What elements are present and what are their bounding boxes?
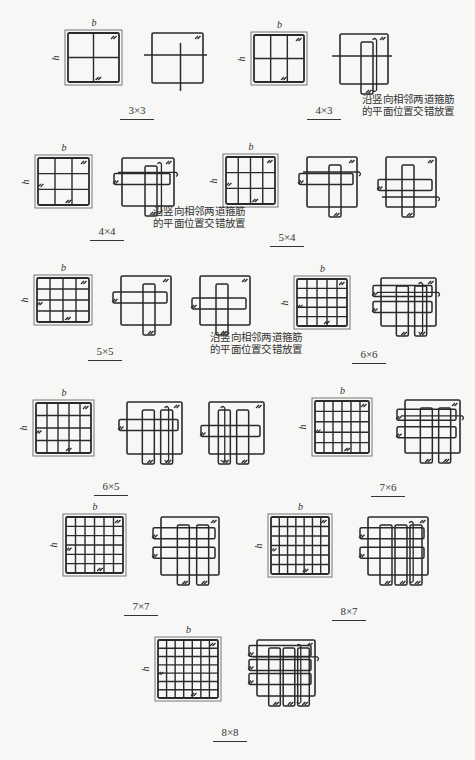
stirrup-assembly: [118, 402, 182, 464]
label-underline: [94, 495, 128, 496]
panel-size-label: 7×6: [371, 481, 405, 497]
stirrup-assembly: [298, 157, 361, 217]
tie-grid: [271, 517, 329, 574]
concrete-section-outline: [155, 637, 221, 701]
dimension-b-label: b: [93, 502, 98, 512]
size-label-text: 4×4: [98, 225, 115, 237]
size-label-text: 6×5: [102, 480, 119, 492]
panel-4x3: [251, 32, 392, 94]
label-underline: [352, 363, 386, 364]
dimension-h-label: h: [298, 425, 308, 430]
stagger-note: 沿竖向相邻两道箍筋 的平面位置交错放置: [153, 206, 246, 230]
stirrup-assembly: [200, 402, 264, 464]
dimension-h-label: h: [19, 426, 29, 431]
panel-5x5: [34, 275, 250, 335]
size-label-text: 7×7: [132, 600, 149, 612]
concrete-section-outline: [35, 155, 92, 208]
stirrup-assembly: [396, 400, 464, 463]
note-line-2: 的平面位置交错放置: [153, 218, 246, 230]
stirrup-assembly: [112, 276, 171, 335]
panel-size-label: 8×8: [213, 726, 247, 742]
label-underline: [332, 620, 366, 621]
label-underline: [90, 240, 124, 241]
panel-size-label: 4×4: [90, 225, 124, 241]
note-line-2: 的平面位置交错放置: [362, 106, 455, 118]
stirrup-assembly: [359, 517, 428, 585]
dimension-b-label: b: [92, 18, 97, 28]
panel-7x7: [63, 514, 219, 585]
note-line-1: 沿竖向相邻两道箍筋: [153, 206, 246, 218]
tie-grid: [38, 158, 89, 205]
label-underline: [213, 741, 247, 742]
stirrup-assembly: [332, 34, 392, 94]
dimension-h-label: h: [51, 55, 61, 60]
panel-8x7: [268, 514, 428, 585]
stagger-note: 沿竖向相邻两道箍筋 的平面位置交错放置: [210, 332, 303, 356]
tie-grid: [297, 279, 347, 326]
panel-size-label: 3×3: [120, 104, 154, 120]
stagger-note: 沿竖向相邻两道箍筋 的平面位置交错放置: [362, 94, 455, 118]
dimension-h-label: h: [141, 667, 151, 672]
stirrup-assembly: [191, 276, 250, 335]
label-underline: [307, 119, 341, 120]
tie-grid: [66, 517, 123, 573]
concrete-section-outline: [294, 276, 350, 329]
dimension-b-label: b: [340, 386, 345, 396]
dimension-h-label: h: [237, 56, 247, 61]
size-label-text: 5×4: [278, 231, 295, 243]
dimension-h-label: h: [280, 300, 290, 305]
panel-5x4: [223, 154, 440, 217]
stirrup-assembly: [372, 278, 440, 336]
dimension-b-label: b: [61, 263, 66, 273]
panel-6x5: [33, 400, 264, 464]
stirrup-assembly: [152, 517, 219, 585]
panel-size-label: 6×5: [94, 480, 128, 496]
tie-grid: [37, 278, 89, 322]
dimension-h-label: h: [209, 178, 219, 183]
panel-size-label: 5×5: [88, 345, 122, 361]
outer-stirrup: [297, 279, 347, 326]
note-line-1: 沿竖向相邻两道箍筋: [362, 94, 455, 106]
panel-size-label: 5×4: [270, 231, 304, 247]
panel-8x8: [155, 637, 319, 706]
size-label-text: 7×6: [379, 481, 396, 493]
note-line-2: 的平面位置交错放置: [210, 344, 303, 356]
label-underline: [88, 360, 122, 361]
panel-3x3: [65, 30, 207, 91]
label-underline: [371, 496, 405, 497]
label-underline: [270, 246, 304, 247]
panel-size-label: 8×7: [332, 605, 366, 621]
label-underline: [120, 119, 154, 120]
dimension-h-label: h: [20, 298, 30, 303]
panel-7x6: [312, 398, 464, 463]
outer-stirrup: [38, 158, 89, 205]
stirrup-assembly: [248, 640, 319, 706]
size-label-text: 8×7: [340, 605, 357, 617]
panel-size-label: 6×6: [352, 348, 386, 364]
tie-grid: [226, 157, 275, 204]
stirrup-assembly: [144, 33, 207, 91]
size-label-text: 4×3: [315, 104, 332, 116]
size-label-text: 3×3: [128, 104, 145, 116]
dimension-b-label: b: [277, 20, 282, 30]
tie-grid: [36, 403, 91, 453]
panel-size-label: 7×7: [124, 600, 158, 616]
note-line-1: 沿竖向相邻两道箍筋: [210, 332, 303, 344]
dimension-b-label: b: [62, 388, 67, 398]
panel-size-label: 4×3: [307, 104, 341, 120]
tie-grid: [315, 401, 369, 453]
size-label-text: 5×5: [96, 345, 113, 357]
tie-grid: [68, 33, 119, 82]
dimension-b-label: b: [320, 264, 325, 274]
dimension-b-label: b: [186, 625, 191, 635]
dimension-b-label: b: [249, 142, 254, 152]
stirrup-assembly: [377, 157, 440, 217]
size-label-text: 8×8: [221, 726, 238, 738]
size-label-text: 6×6: [360, 348, 377, 360]
tie-grid: [158, 640, 218, 698]
dimension-b-label: b: [62, 143, 67, 153]
label-underline: [124, 615, 158, 616]
dimension-b-label: b: [298, 502, 303, 512]
panel-6x6: [294, 276, 440, 336]
dimension-h-label: h: [254, 543, 264, 548]
